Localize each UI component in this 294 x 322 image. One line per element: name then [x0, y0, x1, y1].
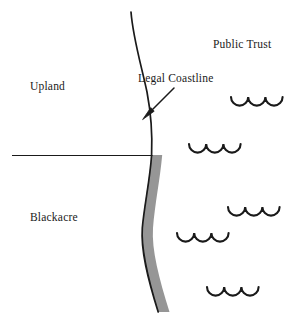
label-legal-coastline: Legal Coastline [138, 72, 214, 84]
coastline-diagram: Public Trust Upland Blackacre Legal Coas… [0, 0, 294, 322]
wave-icon [189, 144, 241, 153]
wave-icon [207, 287, 259, 296]
wave-icon [228, 207, 280, 216]
shoreline-shaded-strip [142, 155, 170, 312]
label-upland: Upland [30, 80, 65, 92]
label-public-trust: Public Trust [213, 38, 271, 50]
wave-icon [231, 97, 283, 106]
label-blackacre: Blackacre [30, 211, 78, 223]
wave-icon [177, 233, 229, 242]
wave-group [177, 97, 283, 296]
